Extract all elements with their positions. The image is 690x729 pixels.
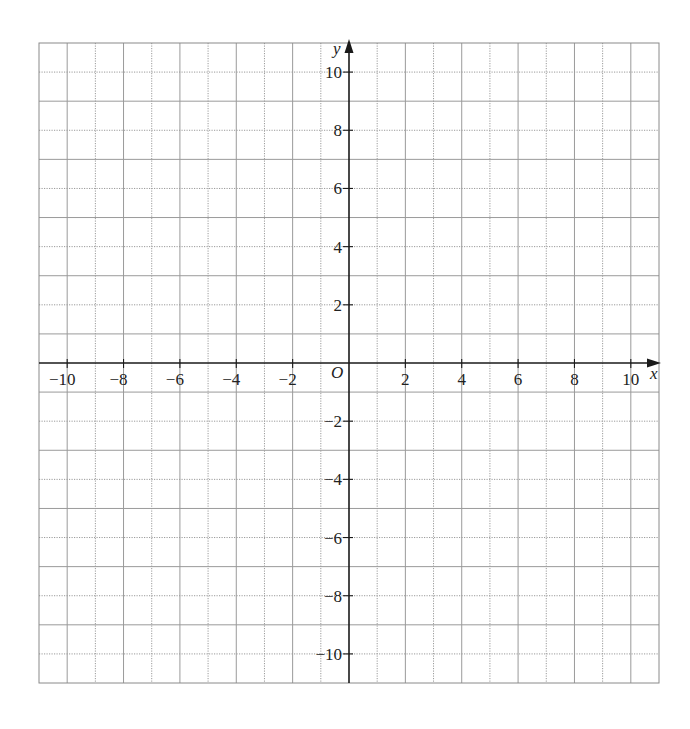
x-tick-label: −2	[279, 370, 297, 389]
x-axis-label: x	[649, 364, 658, 383]
x-tick-label: −8	[109, 370, 127, 389]
x-tick-label: −10	[49, 370, 76, 389]
x-tick-label: 10	[622, 370, 639, 389]
y-tick-label: −4	[324, 470, 343, 489]
y-axis-arrow-icon	[345, 39, 354, 53]
y-tick-label: 2	[334, 296, 343, 315]
x-tick-label: 8	[570, 370, 579, 389]
y-tick-label: 4	[334, 238, 343, 257]
y-tick-label: 6	[334, 179, 343, 198]
x-tick-label: 4	[457, 370, 466, 389]
axes	[39, 39, 661, 683]
y-tick-label: −8	[324, 587, 342, 606]
y-axis-label: y	[331, 39, 341, 58]
x-tick-label: 6	[514, 370, 523, 389]
y-tick-label: −2	[324, 412, 342, 431]
y-tick-label: −6	[324, 529, 342, 548]
x-tick-label: 2	[401, 370, 410, 389]
x-tick-label: −4	[222, 370, 241, 389]
x-tick-label: −6	[166, 370, 184, 389]
y-tick-label: −10	[315, 645, 342, 664]
origin-label: O	[331, 363, 343, 382]
y-tick-label: 10	[325, 63, 342, 82]
y-tick-label: 8	[334, 121, 343, 140]
coordinate-grid: −10−8−6−4−2246810−10−8−6−4−2246810 O x y	[0, 0, 690, 729]
